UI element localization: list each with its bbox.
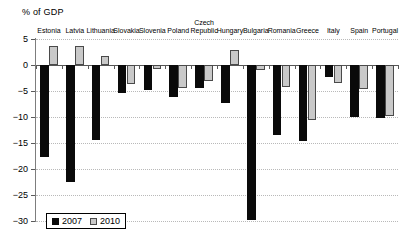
bar-slovakia-2007 [118, 65, 127, 93]
gridline [36, 169, 398, 170]
category-label-estonia: Estonia [37, 27, 60, 35]
x-tick-mark [165, 65, 166, 69]
legend-label-2007: 2007 [62, 216, 82, 226]
x-tick-mark [295, 65, 296, 69]
legend-swatch-2007 [52, 218, 59, 225]
bar-slovakia-2010 [127, 65, 136, 84]
legend-item-2010: 2010 [90, 216, 120, 226]
y-tick-label: −15 [13, 139, 28, 148]
category-label-portugal: Portugal [372, 27, 398, 35]
x-tick-mark [139, 65, 140, 69]
bar-italy-2010 [334, 65, 343, 83]
bar-portugal-2010 [385, 65, 394, 116]
x-tick-mark [114, 65, 115, 69]
gridline [36, 91, 398, 92]
gridline [36, 143, 398, 144]
x-tick-mark [320, 65, 321, 69]
y-tick-mark [31, 143, 35, 144]
y-tick-label: −20 [13, 165, 28, 174]
category-label-italy: Italy [327, 27, 340, 35]
bar-czech-republic-2010 [204, 65, 213, 81]
x-tick-mark [398, 65, 399, 69]
category-label-hungary: Hungary [217, 27, 243, 35]
chart-legend: 2007 2010 [46, 213, 126, 229]
x-tick-mark [36, 65, 37, 69]
bar-greece-2007 [299, 65, 308, 141]
x-tick-mark [191, 65, 192, 69]
bar-czech-republic-2007 [195, 65, 204, 88]
category-label-lithuania: Lithuania [86, 27, 114, 35]
category-label-romania: Romania [268, 27, 296, 35]
bar-bulgaria-2010 [256, 65, 265, 70]
category-label-bulgaria: Bulgaria [243, 27, 269, 35]
bar-spain-2007 [350, 65, 359, 117]
y-tick-mark [31, 117, 35, 118]
bar-poland-2010 [178, 65, 187, 88]
bar-estonia-2007 [40, 65, 49, 157]
bar-greece-2010 [308, 65, 317, 120]
gridline [36, 195, 398, 196]
x-tick-mark [346, 65, 347, 69]
x-tick-mark [88, 65, 89, 69]
bar-portugal-2007 [376, 65, 385, 118]
bar-italy-2007 [325, 65, 334, 77]
y-tick-label: −5 [18, 87, 28, 96]
gridline [36, 39, 398, 40]
y-tick-label: −30 [13, 217, 28, 226]
x-tick-mark [372, 65, 373, 69]
category-label-slovakia: Slovakia [113, 27, 139, 35]
y-tick-mark [31, 65, 35, 66]
bar-romania-2010 [282, 65, 291, 87]
y-tick-label: −25 [13, 191, 28, 200]
bar-latvia-2007 [66, 65, 75, 182]
category-label-greece: Greece [296, 27, 319, 35]
bar-spain-2010 [359, 65, 368, 89]
x-tick-mark [269, 65, 270, 69]
bar-lithuania-2007 [92, 65, 101, 140]
y-tick-mark [31, 39, 35, 40]
legend-item-2007: 2007 [52, 216, 82, 226]
bar-lithuania-2010 [101, 56, 110, 65]
x-tick-mark [217, 65, 218, 69]
bar-poland-2007 [169, 65, 178, 97]
y-tick-label: 0 [23, 61, 28, 70]
category-label-spain: Spain [350, 27, 368, 35]
y-tick-mark [31, 195, 35, 196]
bar-slovenia-2010 [153, 65, 162, 69]
x-tick-mark [62, 65, 63, 69]
plot-area [36, 39, 398, 221]
x-axis-category-labels: EstoniaLatviaLithuaniaSlovakiaSloveniaPo… [0, 0, 412, 38]
category-label-slovenia: Slovenia [139, 27, 166, 35]
bar-bulgaria-2007 [247, 65, 256, 220]
y-tick-mark [31, 221, 35, 222]
chart-container: % of GDP 50−5−10−15−20−25−30 EstoniaLatv… [0, 0, 412, 251]
legend-swatch-2010 [90, 218, 97, 225]
gridline [36, 117, 398, 118]
bar-hungary-2007 [221, 65, 230, 103]
bar-slovenia-2007 [144, 65, 153, 90]
bar-hungary-2010 [230, 50, 239, 65]
bar-romania-2007 [273, 65, 282, 135]
y-tick-mark [31, 91, 35, 92]
x-tick-mark [243, 65, 244, 69]
legend-label-2010: 2010 [100, 216, 120, 226]
y-tick-mark [31, 169, 35, 170]
category-label-latvia: Latvia [65, 27, 84, 35]
y-tick-label: −10 [13, 113, 28, 122]
bar-latvia-2010 [75, 46, 84, 65]
bar-estonia-2010 [49, 46, 58, 65]
